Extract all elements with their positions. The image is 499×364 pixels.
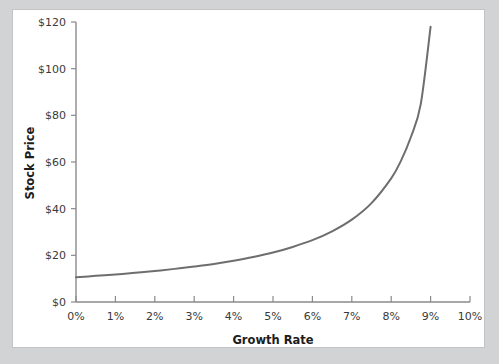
x-tick-label: 4%	[225, 310, 242, 323]
y-axis-title: Stock Price	[23, 126, 37, 199]
x-tick-label: 9%	[422, 310, 439, 323]
y-axis-ticks	[71, 22, 76, 302]
y-tick-label: $60	[45, 156, 66, 169]
figure-frame: $0$20$40$60$80$100$120 0%1%2%3%4%5%6%7%8…	[0, 0, 499, 364]
x-tick-label: 3%	[185, 310, 202, 323]
stock-price-curve	[76, 27, 431, 278]
y-tick-label: $80	[45, 109, 66, 122]
x-tick-label: 7%	[343, 310, 360, 323]
chart-plot-area: $0$20$40$60$80$100$120 0%1%2%3%4%5%6%7%8…	[0, 0, 499, 364]
x-axis-ticks	[76, 296, 470, 302]
x-axis-tick-labels: 0%1%2%3%4%5%6%7%8%9%10%	[67, 310, 482, 323]
y-axis-tick-labels: $0$20$40$60$80$100$120	[38, 16, 66, 309]
y-tick-label: $40	[45, 203, 66, 216]
x-tick-label: 0%	[67, 310, 84, 323]
y-tick-label: $20	[45, 249, 66, 262]
x-tick-label: 8%	[382, 310, 399, 323]
y-tick-label: $120	[38, 16, 66, 29]
x-axis-title: Growth Rate	[232, 333, 313, 347]
x-tick-label: 1%	[107, 310, 124, 323]
x-tick-label: 5%	[264, 310, 281, 323]
x-tick-label: 10%	[458, 310, 482, 323]
y-tick-label: $0	[52, 296, 66, 309]
y-tick-label: $100	[38, 63, 66, 76]
x-tick-label: 6%	[304, 310, 321, 323]
x-tick-label: 2%	[146, 310, 163, 323]
